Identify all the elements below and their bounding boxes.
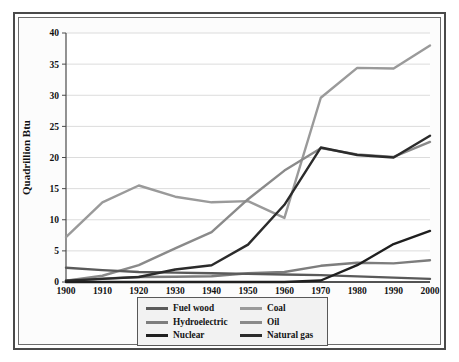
legend-swatch-icon: [146, 334, 168, 337]
x-axis-tick-label: 1940: [202, 286, 221, 296]
y-axis-tick-label: 15: [50, 184, 60, 194]
line-chart: 0510152025303540190019101920193019401950…: [0, 0, 459, 362]
legend-item-oil[interactable]: Oil: [240, 318, 330, 327]
x-axis-tick-label: 1960: [275, 286, 294, 296]
y-axis-tick-label: 35: [50, 60, 60, 70]
x-axis-tick-label: 1980: [348, 286, 367, 296]
y-axis-title: Quadrillion Btu: [20, 120, 32, 195]
chart-legend: Fuel woodCoalHydroelectricOilNuclearNatu…: [137, 297, 328, 346]
legend-item-coal[interactable]: Coal: [240, 304, 330, 313]
legend-item-hydroelectric[interactable]: Hydroelectric: [146, 318, 240, 327]
x-axis-tick-label: 1930: [166, 286, 185, 296]
legend-item-fuel-wood[interactable]: Fuel wood: [146, 304, 240, 313]
legend-item-label: Fuel wood: [173, 304, 214, 313]
y-axis-tick-label: 40: [50, 28, 60, 38]
y-axis-tick-label: 30: [50, 91, 60, 101]
legend-swatch-icon: [240, 334, 262, 337]
legend-swatch-icon: [240, 321, 262, 324]
y-axis-tick-label: 10: [50, 215, 60, 225]
legend-item-natural-gas[interactable]: Natural gas: [240, 331, 330, 340]
y-axis-tick-label: 5: [54, 246, 59, 256]
legend-item-nuclear[interactable]: Nuclear: [146, 331, 240, 340]
figure-frame: 0510152025303540190019101920193019401950…: [0, 0, 459, 362]
x-axis-tick-label: 2000: [421, 286, 440, 296]
y-axis-tick-label: 20: [50, 153, 60, 163]
legend-item-label: Coal: [267, 304, 286, 313]
legend-entries: Fuel woodCoalHydroelectricOilNuclearNatu…: [146, 302, 321, 343]
legend-swatch-icon: [240, 307, 262, 310]
x-axis-tick-label: 1950: [239, 286, 258, 296]
legend-item-label: Nuclear: [173, 331, 205, 340]
legend-swatch-icon: [146, 307, 168, 310]
x-axis-tick-label: 1920: [129, 286, 148, 296]
legend-item-label: Natural gas: [267, 331, 313, 340]
x-axis-tick-label: 1910: [93, 286, 112, 296]
x-axis-tick-label: 1970: [311, 286, 330, 296]
x-axis-tick-label: 1900: [57, 286, 76, 296]
legend-item-label: Oil: [267, 318, 279, 327]
x-axis-tick-label: 1990: [384, 286, 403, 296]
legend-item-label: Hydroelectric: [173, 318, 228, 327]
y-axis-tick-label: 25: [50, 122, 60, 132]
legend-swatch-icon: [146, 321, 168, 324]
